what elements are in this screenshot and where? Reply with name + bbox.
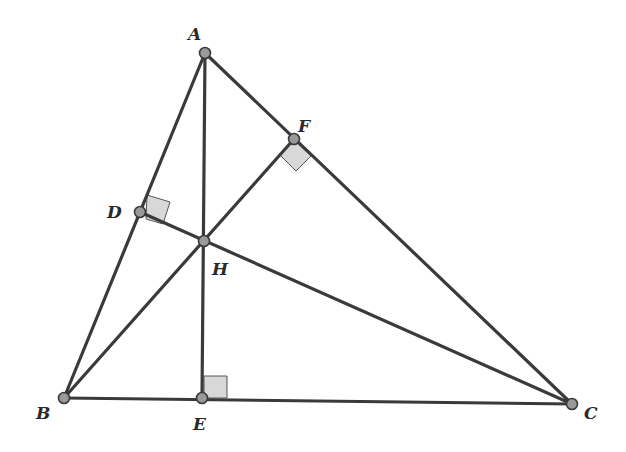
point-b [59,393,70,404]
label-d: D [106,202,122,222]
label-f: F [297,116,312,136]
point-d [135,207,146,218]
label-a: A [186,24,201,44]
label-e: E [192,414,207,434]
point-e [197,393,208,404]
right-angle-marker-e [204,376,227,398]
altitude-ae [202,53,205,398]
label-c: C [584,403,598,423]
label-b: B [35,403,50,423]
label-h: H [211,259,229,279]
point-a [200,48,211,59]
side-ab [64,53,205,398]
point-c [567,399,578,410]
point-h [199,236,210,247]
orthocenter-diagram: A B C D E F H [0,0,626,452]
side-bc [64,398,572,404]
altitude-bf [64,139,294,398]
side-ca [205,53,572,404]
